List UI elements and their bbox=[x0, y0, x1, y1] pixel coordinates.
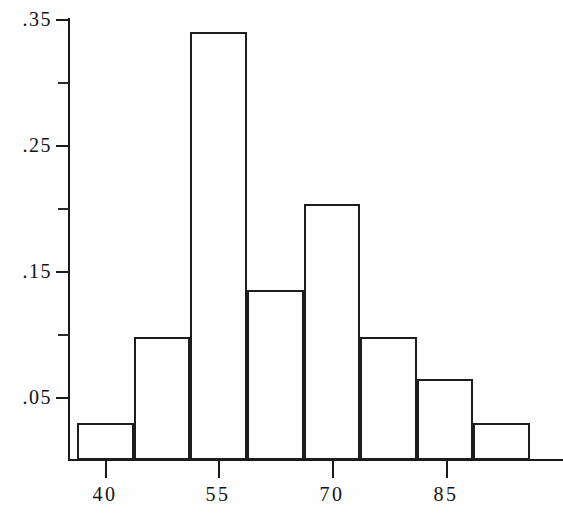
histogram-bar bbox=[417, 379, 474, 460]
histogram-bar bbox=[304, 204, 361, 460]
histogram-bar bbox=[360, 337, 417, 460]
histogram-bar bbox=[247, 290, 304, 460]
histogram-bar bbox=[473, 423, 530, 460]
bar-group bbox=[0, 0, 563, 515]
histogram-bar bbox=[77, 423, 134, 460]
histogram-bar bbox=[134, 337, 191, 460]
histogram-figure: .35 .25 .15 .05 40 55 70 85 bbox=[0, 0, 563, 515]
histogram-bar bbox=[190, 32, 247, 460]
